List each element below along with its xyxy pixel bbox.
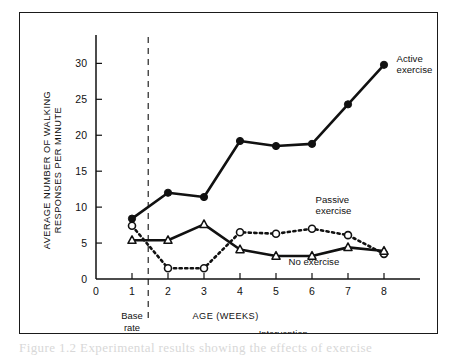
data-point-marker [129, 222, 136, 229]
y-tick-label: 10 [75, 201, 87, 213]
data-point-marker [128, 215, 135, 222]
data-point-marker [165, 265, 172, 272]
x-tick-label: 7 [345, 285, 351, 297]
y-axis-title-line-1: AVERAGE NUMBER OF WALKING [42, 91, 52, 250]
x-axis-group: 012345678 [93, 273, 420, 297]
y-axis-group: 051015202530 [75, 35, 102, 285]
y-tick-label: 0 [81, 273, 87, 285]
y-axis-ticks [96, 63, 102, 243]
data-point-marker [273, 230, 280, 237]
phase-label: Intervention [259, 328, 308, 333]
x-tick-label: 5 [273, 285, 279, 297]
x-axis-tick-labels: 012345678 [93, 285, 387, 297]
data-point-marker [164, 236, 172, 244]
y-axis-title-line-2: RESPONSES PER MINUTE [53, 107, 63, 233]
data-point-marker [164, 189, 171, 196]
data-point-marker [308, 140, 315, 147]
chart-frame: 051015202530 012345678 ActiveexercisePas… [19, 12, 438, 334]
y-tick-label: 25 [75, 93, 87, 105]
x-axis-ticks [132, 273, 384, 279]
x-tick-label: 1 [129, 285, 135, 297]
x-tick-label: 3 [201, 285, 207, 297]
figure-caption-text: Figure 1.2 Experimental results showing … [19, 341, 438, 355]
series-annotation: exercise [316, 205, 352, 216]
y-tick-label: 15 [75, 165, 87, 177]
data-point-marker [344, 101, 351, 108]
data-point-marker [380, 61, 387, 68]
x-tick-label: 0 [93, 285, 99, 297]
x-axis-title: AGE (WEEKS) [192, 311, 258, 321]
data-point-marker [237, 229, 244, 236]
data-point-marker [309, 225, 316, 232]
data-point-marker [344, 243, 352, 251]
y-axis-tick-labels: 051015202530 [75, 57, 87, 285]
figure-caption-strip: Figure 1.2 Experimental results showing … [19, 341, 438, 355]
data-point-marker [272, 252, 280, 260]
figure-root: 051015202530 012345678 ActiveexercisePas… [0, 0, 457, 357]
data-point-marker [272, 142, 279, 149]
series-markers-group [128, 61, 388, 272]
series-annotation: No exercise [289, 256, 340, 267]
data-point-marker [380, 247, 388, 255]
x-tick-label: 2 [165, 285, 171, 297]
series-annotation: Passive [316, 194, 350, 205]
series-annotation: Active [397, 53, 423, 64]
y-axis-title-group: AVERAGE NUMBER OF WALKING RESPONSES PER … [42, 91, 63, 250]
data-point-marker [128, 236, 136, 244]
phase-label: Base [121, 310, 142, 321]
data-point-marker [236, 137, 243, 144]
line-chart: 051015202530 012345678 ActiveexercisePas… [20, 13, 437, 333]
data-point-marker [201, 265, 208, 272]
data-point-marker [200, 193, 207, 200]
series-annotation: exercise [397, 64, 433, 75]
phase-label: rate [124, 322, 140, 333]
y-tick-label: 20 [75, 129, 87, 141]
x-tick-label: 4 [237, 285, 243, 297]
y-tick-label: 30 [75, 57, 87, 69]
y-tick-label: 5 [81, 237, 87, 249]
data-point-marker [345, 232, 352, 239]
series-annotation-labels: ActiveexercisePassiveexerciseNo exercise [289, 53, 433, 267]
data-point-marker [200, 220, 208, 228]
x-tick-label: 8 [381, 285, 387, 297]
x-tick-label: 6 [309, 285, 315, 297]
